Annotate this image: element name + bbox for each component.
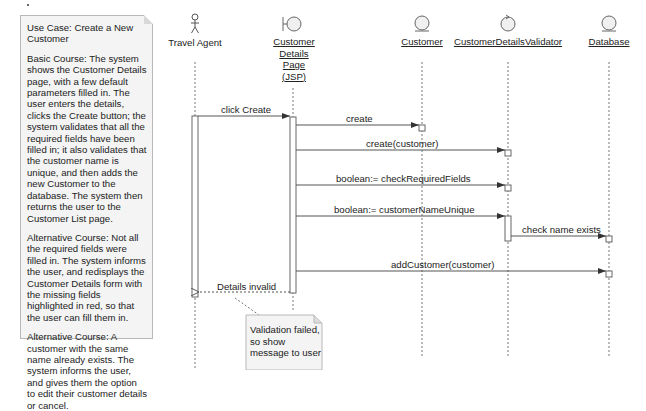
boundary-icon bbox=[283, 17, 301, 31]
participant-database: Database bbox=[579, 36, 639, 48]
activation-database-add bbox=[606, 271, 612, 277]
participant-customer-details-validator: CustomerDetailsValidator bbox=[448, 36, 568, 48]
activation-validator-unique bbox=[505, 216, 511, 241]
activation-validator-create bbox=[505, 150, 511, 156]
activation-customer-details-page bbox=[290, 117, 296, 293]
label-check-required-fields: boolean:= checkRequiredFields bbox=[336, 173, 471, 184]
label-check-name-exists: check name exists bbox=[522, 224, 601, 235]
activation-validator-check bbox=[505, 185, 511, 191]
participant-customer-details-page: Customer Details Page (JSP) bbox=[263, 36, 325, 82]
control-icon bbox=[501, 15, 515, 31]
label-customer-name-unique: boolean:= customerNameUnique bbox=[334, 204, 475, 215]
label-details-invalid: Details invalid bbox=[217, 281, 276, 292]
label-create: create bbox=[346, 113, 373, 124]
actor-icon bbox=[191, 14, 199, 33]
note-anchor-line bbox=[235, 298, 259, 315]
participant-customer: Customer bbox=[392, 36, 452, 48]
entity-icon-customer bbox=[415, 16, 429, 31]
label-add-customer: addCustomer(customer) bbox=[391, 259, 494, 270]
activation-travel-agent bbox=[192, 116, 198, 297]
label-click-create: click Create bbox=[221, 104, 271, 115]
label-create-customer: create(customer) bbox=[366, 138, 439, 149]
validation-note-text: Validation failed, so show message to us… bbox=[250, 324, 321, 359]
entity-icon-database bbox=[602, 16, 616, 31]
activation-database-check bbox=[606, 236, 612, 242]
activation-customer-create bbox=[419, 125, 425, 131]
participant-travel-agent: Travel Agent bbox=[160, 37, 230, 49]
